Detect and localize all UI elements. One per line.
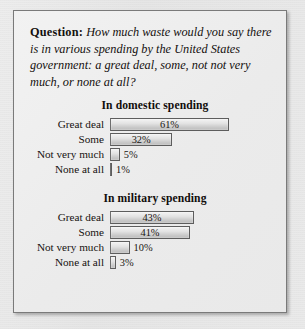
bar-row: None at all3%: [24, 255, 286, 270]
bar: 61%: [110, 118, 229, 131]
bar-value-label: 3%: [120, 256, 134, 269]
bar-category-label: Some: [24, 132, 110, 147]
bar-row: Some32%: [24, 132, 286, 147]
bar-chart-military: Great deal43%Some41%Not very much10%None…: [14, 210, 286, 270]
bar-value-label: 1%: [116, 163, 130, 176]
chart-section-domestic: In domestic spending Great deal61%Some32…: [14, 99, 286, 177]
bar-track: 1%: [110, 162, 286, 177]
bar-row: None at all1%: [24, 162, 286, 177]
bar-row: Some41%: [24, 225, 286, 240]
bar-value-label: 41%: [111, 227, 189, 238]
bar: 41%: [110, 226, 190, 239]
question-label: Question:: [30, 25, 83, 39]
bar-track: 5%: [110, 147, 286, 162]
bar-row: Not very much10%: [24, 240, 286, 255]
bar: 43%: [110, 211, 194, 224]
bar-category-label: Some: [24, 225, 110, 240]
bar-row: Great deal43%: [24, 210, 286, 225]
section-title-military: In military spending: [14, 192, 286, 205]
bar: 32%: [110, 133, 172, 146]
bar: [110, 256, 116, 269]
bar-track: 32%: [110, 132, 286, 147]
bar-value-label: 43%: [111, 212, 193, 223]
bar: [110, 148, 120, 161]
bar-chart-domestic: Great deal61%Some32%Not very much5%None …: [14, 117, 286, 177]
bar-value-label: 61%: [111, 119, 228, 130]
bar-row: Not very much5%: [24, 147, 286, 162]
bar-category-label: None at all: [24, 255, 110, 270]
bar-value-label: 32%: [111, 134, 171, 145]
bar-category-label: Great deal: [24, 117, 110, 132]
bar: [110, 163, 112, 176]
bar-track: 61%: [110, 117, 286, 132]
chart-section-military: In military spending Great deal43%Some41…: [14, 192, 286, 270]
bar-track: 41%: [110, 225, 286, 240]
bar-category-label: Not very much: [24, 240, 110, 255]
bar: [110, 241, 130, 254]
bar-category-label: Great deal: [24, 210, 110, 225]
bar-category-label: Not very much: [24, 147, 110, 162]
bar-value-label: 10%: [134, 241, 153, 254]
bar-track: 3%: [110, 255, 286, 270]
bar-track: 43%: [110, 210, 286, 225]
bar-track: 10%: [110, 240, 286, 255]
section-title-domestic: In domestic spending: [14, 99, 286, 112]
bar-value-label: 5%: [124, 148, 138, 161]
survey-question-panel: Question: How much waste would you say t…: [13, 10, 287, 313]
question-block: Question: How much waste would you say t…: [30, 24, 272, 90]
bar-row: Great deal61%: [24, 117, 286, 132]
bar-category-label: None at all: [24, 162, 110, 177]
